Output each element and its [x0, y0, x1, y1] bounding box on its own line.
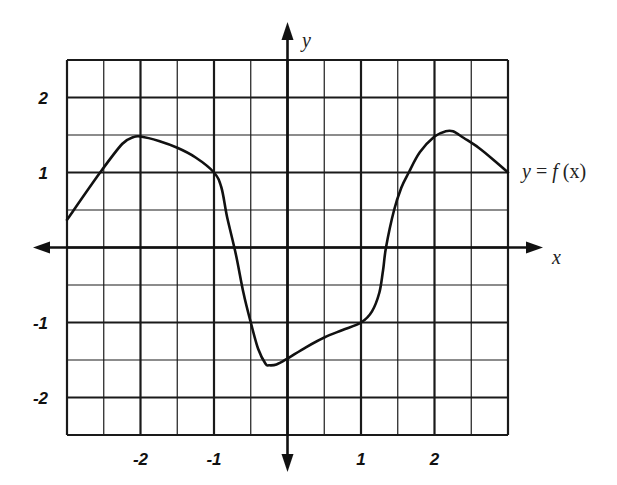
x-axis-label: x [551, 246, 561, 268]
y-tick-label: 1 [39, 164, 48, 183]
axes [33, 22, 543, 472]
function-label-arg: (x) [558, 160, 586, 183]
y-axis-arrow-up-icon [282, 22, 294, 40]
function-label-y: y [520, 160, 531, 183]
function-label-eq: = [531, 160, 552, 182]
y-tick-label: -1 [33, 314, 48, 333]
function-graph: -2-112 21-1-2 x y y = f (x) [0, 0, 617, 485]
x-tick-label: -2 [133, 450, 149, 469]
y-tick-label: 2 [38, 89, 49, 108]
x-tick-label: 2 [429, 450, 440, 469]
y-tick-label: -2 [33, 389, 49, 408]
x-axis-arrow-right-icon [526, 242, 543, 254]
x-axis-arrow-left-icon [33, 242, 50, 254]
function-label: y = f (x) [520, 160, 586, 183]
y-axis-arrow-down-icon [282, 454, 294, 472]
y-axis-label: y [300, 29, 311, 52]
x-tick-label: -1 [206, 450, 221, 469]
x-tick-label: 1 [356, 450, 365, 469]
